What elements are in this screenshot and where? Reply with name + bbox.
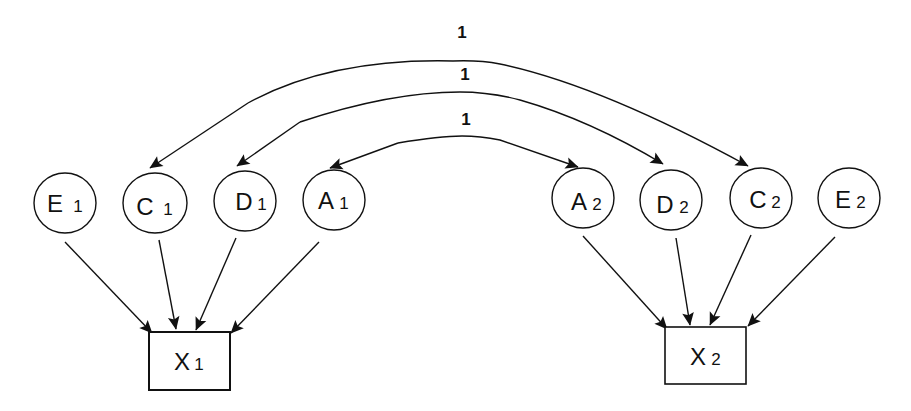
- svg-text:1: 1: [163, 200, 172, 219]
- svg-text:1: 1: [194, 355, 203, 374]
- observed-node-X2: X 2: [665, 327, 746, 384]
- correlation-arc-A: [398, 136, 578, 167]
- correlation-arc-C: [248, 61, 748, 166]
- latent-node-E1: E 1: [34, 173, 96, 233]
- svg-text:2: 2: [771, 193, 780, 212]
- path-A1-X1: [231, 242, 319, 333]
- svg-text:E: E: [47, 190, 63, 217]
- svg-text:1: 1: [73, 197, 82, 216]
- svg-text:2: 2: [711, 350, 720, 369]
- correlation-arc-D: [300, 92, 663, 164]
- path-D2-X2: [676, 238, 690, 325]
- correlation-arc-D-start: [237, 122, 300, 166]
- svg-text:X: X: [690, 343, 706, 370]
- svg-text:2: 2: [679, 198, 688, 217]
- path-C1-X1: [159, 240, 176, 329]
- svg-text:C: C: [136, 193, 153, 220]
- correlation-label-inner: 1: [461, 110, 470, 129]
- svg-text:A: A: [571, 188, 587, 215]
- path-arrows: [65, 235, 835, 333]
- path-E2-X2: [748, 237, 835, 326]
- svg-text:D: D: [656, 191, 673, 218]
- path-A2-X2: [583, 236, 667, 329]
- svg-text:2: 2: [856, 193, 865, 212]
- latent-node-D2: D 2: [640, 170, 702, 230]
- correlation-label-outer: 1: [457, 23, 466, 42]
- latent-node-C2: C 2: [730, 168, 792, 228]
- latent-node-A2: A 2: [552, 168, 614, 228]
- svg-text:1: 1: [257, 195, 266, 214]
- path-diagram: 1 1 1 E 1 C 1 D 1 A 1 A 2 D 2: [0, 0, 911, 411]
- correlation-label-middle: 1: [460, 65, 469, 84]
- svg-text:D: D: [235, 188, 252, 215]
- latent-node-D1: D 1: [214, 171, 276, 231]
- svg-text:2: 2: [592, 195, 601, 214]
- svg-text:E: E: [835, 186, 851, 213]
- observed-node-X1: X 1: [149, 332, 230, 390]
- svg-text:1: 1: [339, 194, 348, 213]
- latent-node-A1: A 1: [303, 170, 365, 230]
- path-D1-X1: [196, 238, 236, 330]
- latent-node-E2: E 2: [818, 168, 880, 228]
- svg-text:C: C: [749, 186, 766, 213]
- svg-text:A: A: [318, 187, 334, 214]
- path-E1-X1: [65, 242, 152, 333]
- correlation-arcs: [150, 61, 748, 168]
- correlation-arc-C-start: [150, 103, 248, 168]
- path-C2-X2: [710, 235, 751, 325]
- svg-text:X: X: [174, 348, 190, 375]
- correlation-arc-A-start: [330, 143, 398, 168]
- latent-node-C1: C 1: [123, 173, 187, 233]
